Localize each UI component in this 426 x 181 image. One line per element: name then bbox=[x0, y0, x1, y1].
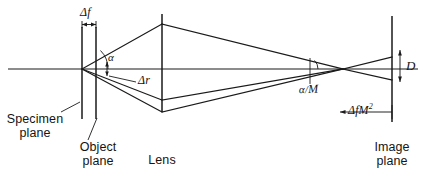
delta-f-label: Δf bbox=[80, 6, 91, 19]
aperture-d-label: D bbox=[406, 59, 416, 74]
delta-f-m2-exponent: 2 bbox=[369, 102, 373, 111]
image-plane-label: Image plane bbox=[364, 140, 420, 168]
delta-f-m2-base: M bbox=[359, 103, 369, 117]
object-plane-label-line2: plane bbox=[70, 154, 126, 168]
ray-upper-focus-to-image bbox=[343, 57, 392, 69]
alpha-over-m-denominator: M bbox=[308, 82, 319, 96]
object-plane-leader-line bbox=[88, 118, 97, 140]
delta-r-bottom-arrowhead bbox=[105, 72, 109, 77]
image-plane-label-line1: Image bbox=[364, 140, 420, 154]
specimen-plane-label-line1: Specimen bbox=[4, 112, 66, 126]
diagram-canvas bbox=[0, 0, 426, 181]
lens-label: Lens bbox=[134, 153, 190, 167]
image-plane-label-line2: plane bbox=[364, 154, 420, 168]
delta-r-label: Δr bbox=[138, 74, 150, 87]
delta-f-m2-prefix: Δf bbox=[348, 103, 359, 117]
aperture-d-top-arrowhead bbox=[398, 50, 402, 56]
specimen-plane-label: Specimen plane bbox=[4, 112, 66, 140]
ray-upper-object-to-lens bbox=[82, 24, 162, 69]
aperture-d-bottom-arrowhead bbox=[398, 77, 402, 83]
ray-defocus-lower-object-to-lens bbox=[82, 69, 162, 112]
ray-lower-object-to-lens bbox=[82, 69, 162, 100]
delta-f-m2-left-arrowhead bbox=[340, 110, 346, 114]
specimen-plane-leader-line bbox=[61, 102, 80, 112]
delta-f-m2-label: ΔfM2 bbox=[348, 103, 373, 117]
delta-f-right-arrowhead bbox=[91, 23, 96, 27]
specimen-plane-label-line2: plane bbox=[4, 126, 66, 140]
ray-lower-focus-to-image bbox=[343, 69, 392, 80]
alpha-label: α bbox=[108, 51, 114, 63]
alpha-over-m-label: α/M bbox=[299, 83, 319, 97]
object-plane-label: Object plane bbox=[70, 140, 126, 168]
object-plane-label-line1: Object bbox=[70, 140, 126, 154]
delta-f-left-arrowhead bbox=[82, 23, 87, 27]
optical-ray-diagram-figure: Δf α Δr α/M D ΔfM2 Specimen plane Object… bbox=[0, 0, 426, 181]
